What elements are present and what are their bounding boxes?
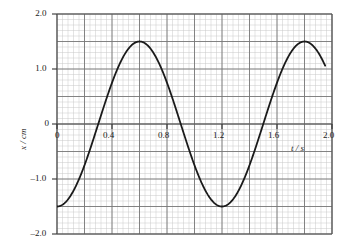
x-axis-title: t / s	[291, 143, 304, 153]
x-tick-label: 1.6	[268, 130, 279, 140]
y-tick-label: 1.0	[35, 63, 46, 73]
y-tick-label: 2.0	[35, 8, 46, 18]
x-axis-title-text: t / s	[291, 143, 304, 153]
shm-graph-figure: x / cm t / s 00.40.81.21.62.0 –2.0–1.001…	[0, 0, 345, 250]
y-tick-label: –2.0	[31, 228, 47, 238]
y-axis-title-text: x / cm	[18, 129, 28, 151]
y-tick-label: 0	[44, 118, 49, 128]
x-tick-label: 2.0	[323, 130, 334, 140]
y-axis-title: x / cm	[18, 129, 28, 151]
x-tick-label: 0.4	[103, 130, 114, 140]
x-tick-label: 1.2	[213, 130, 224, 140]
x-tick-label: 0	[55, 130, 60, 140]
x-tick-label: 0.8	[158, 130, 169, 140]
graph-canvas	[0, 0, 345, 250]
y-tick-label: –1.0	[31, 173, 47, 183]
